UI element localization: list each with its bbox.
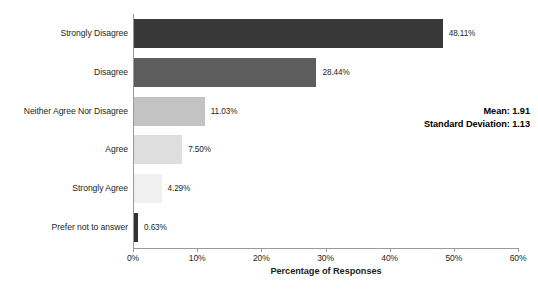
x-axis-tick [197, 248, 198, 252]
bar-row: Prefer not to answer0.63% [0, 208, 538, 247]
x-axis-tick [133, 248, 134, 252]
x-axis-tick [454, 248, 455, 252]
x-axis-tick [261, 248, 262, 252]
bar [134, 213, 138, 242]
x-axis-title: Percentage of Responses [133, 266, 519, 276]
bar-value-label: 7.50% [188, 130, 211, 169]
statistics-annotation: Mean: 1.91 Standard Deviation: 1.13 [424, 105, 530, 131]
x-axis-tick-label: 0% [127, 253, 139, 263]
category-label: Agree [0, 130, 128, 169]
bar-row: Strongly Disagree48.11% [0, 14, 538, 53]
bar-row: Strongly Agree4.29% [0, 169, 538, 208]
bar-value-label: 11.03% [211, 92, 238, 131]
bar [134, 19, 443, 48]
category-label: Neither Agree Nor Disagree [0, 92, 128, 131]
bar [134, 135, 182, 164]
mean-text: Mean: 1.91 [424, 105, 530, 118]
bar-value-label: 28.44% [322, 53, 349, 92]
bar-value-label: 48.11% [449, 14, 476, 53]
x-axis-tick-label: 20% [253, 253, 270, 263]
x-axis-tick [326, 248, 327, 252]
standard-deviation-text: Standard Deviation: 1.13 [424, 118, 530, 131]
bar-value-label: 0.63% [144, 208, 167, 247]
bar-row: Agree7.50% [0, 130, 538, 169]
x-axis-tick-label: 60% [510, 253, 527, 263]
category-label: Strongly Agree [0, 169, 128, 208]
x-axis-tick-label: 40% [381, 253, 398, 263]
x-axis-tick-label: 30% [317, 253, 334, 263]
bar-row: Disagree28.44% [0, 53, 538, 92]
bar-chart: 0%10%20%30%40%50%60% Strongly Disagree48… [0, 0, 538, 293]
x-axis-tick [518, 248, 519, 252]
bar [134, 174, 162, 203]
x-axis-tick [390, 248, 391, 252]
category-label: Strongly Disagree [0, 14, 128, 53]
bar [134, 58, 316, 87]
category-label: Disagree [0, 53, 128, 92]
bar-value-label: 4.29% [168, 169, 191, 208]
category-label: Prefer not to answer [0, 208, 128, 247]
bar [134, 97, 205, 126]
x-axis-tick-label: 10% [189, 253, 206, 263]
x-axis-tick-label: 50% [445, 253, 462, 263]
